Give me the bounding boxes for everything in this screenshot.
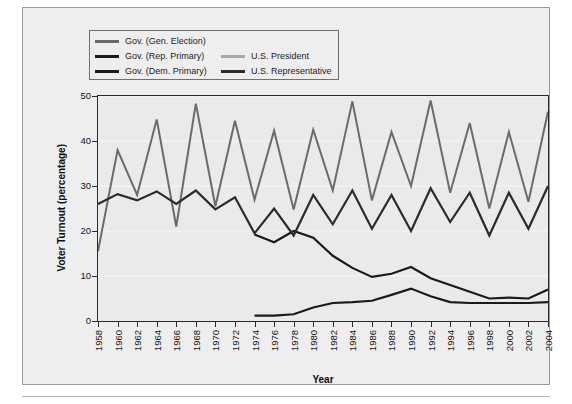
x-tick-1986: 1986 (367, 330, 378, 351)
x-tick-2002: 2002 (523, 330, 534, 351)
x-tick-mark (313, 322, 314, 327)
x-tick-mark (372, 322, 373, 327)
x-tick-1994: 1994 (445, 330, 456, 351)
x-tick-1966: 1966 (171, 330, 182, 351)
chart-figure: Gov. (Gen. Election) Gov. (Rep. Primary)… (0, 0, 572, 404)
x-axis-tick-labels: 1958196019621964196619681970197219741976… (23, 8, 572, 404)
x-tick-1988: 1988 (386, 330, 397, 351)
x-tick-mark (118, 322, 119, 327)
x-tick-1982: 1982 (328, 330, 339, 351)
x-tick-mark (98, 322, 99, 327)
x-tick-1974: 1974 (250, 330, 261, 351)
x-tick-1962: 1962 (132, 330, 143, 351)
x-tick-mark (489, 322, 490, 327)
x-tick-1964: 1964 (152, 330, 163, 351)
x-tick-mark (333, 322, 334, 327)
x-tick-mark (450, 322, 451, 327)
x-tick-mark (157, 322, 158, 327)
x-tick-mark (176, 322, 177, 327)
x-tick-mark (352, 322, 353, 327)
x-tick-mark (215, 322, 216, 327)
x-tick-1968: 1968 (191, 330, 202, 351)
x-tick-mark (548, 322, 549, 327)
x-tick-1998: 1998 (484, 330, 495, 351)
chart-frame: Gov. (Gen. Election) Gov. (Rep. Primary)… (22, 7, 550, 385)
x-tick-2000: 2000 (504, 330, 515, 351)
x-tick-mark (391, 322, 392, 327)
x-tick-1958: 1958 (93, 330, 104, 351)
x-tick-1970: 1970 (210, 330, 221, 351)
x-tick-1992: 1992 (426, 330, 437, 351)
x-tick-mark (411, 322, 412, 327)
x-tick-mark (235, 322, 236, 327)
x-tick-2004: 2004 (543, 330, 554, 351)
x-tick-mark (196, 322, 197, 327)
x-tick-mark (509, 322, 510, 327)
x-tick-1990: 1990 (406, 330, 417, 351)
x-tick-mark (294, 322, 295, 327)
figure-bottom-rule (22, 396, 550, 397)
x-tick-1980: 1980 (308, 330, 319, 351)
x-tick-mark (431, 322, 432, 327)
x-tick-1996: 1996 (465, 330, 476, 351)
x-tick-1976: 1976 (269, 330, 280, 351)
x-tick-mark (137, 322, 138, 327)
x-tick-1978: 1978 (289, 330, 300, 351)
x-tick-mark (255, 322, 256, 327)
x-tick-mark (274, 322, 275, 327)
x-tick-mark (528, 322, 529, 327)
x-tick-1960: 1960 (113, 330, 124, 351)
x-axis-title: Year (97, 374, 549, 385)
x-tick-1984: 1984 (347, 330, 358, 351)
x-tick-1972: 1972 (230, 330, 241, 351)
x-tick-mark (470, 322, 471, 327)
